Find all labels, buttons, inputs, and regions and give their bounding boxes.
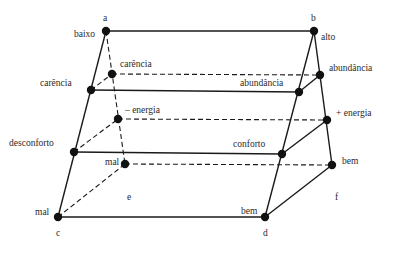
node-labels: baixo alto carência abundância carência … [9,29,373,217]
semantic-lattice-diagram: a b c d e f baixo alto carência abundânc… [0,0,395,253]
node-baixo [102,27,110,35]
vertex-b: b [311,13,316,23]
edge-front-carencia-abundancia [91,90,299,92]
edge-right-back [314,31,332,165]
edge-left-front [58,31,106,217]
node-front-abundancia [295,88,303,96]
label-conforto: conforto [233,139,265,149]
edge-left-depth-3 [58,164,125,217]
label-front-bem: bem [241,206,258,216]
edge-right-front [265,31,314,217]
edge-left-depth-2 [74,119,118,152]
label-back-carencia: carência [120,59,152,69]
edge-back-carencia-abundancia [112,74,320,75]
label-back-mal: mal [105,157,120,167]
edge-right-depth-3 [265,165,332,217]
node-front-bem [261,213,269,221]
label-front-abundancia: abundância [240,78,284,88]
vertex-d: d [263,228,268,238]
label-front-carencia: carência [40,78,72,88]
node-back-carencia [108,70,116,78]
edge-left-back [106,31,125,164]
edge-back-mal-bem [125,164,332,165]
node-back-abundancia [316,71,324,79]
label-plus-energia: + energia [336,108,372,118]
label-desconforto: desconforto [9,138,54,148]
label-minus-energia: – energia [124,105,161,115]
label-back-abundancia: abundância [329,63,373,73]
vertex-a: a [103,13,108,23]
node-conforto [278,150,286,158]
edge-back-energia [118,119,327,120]
node-front-carencia [87,86,95,94]
node-back-mal [121,160,129,168]
vertex-e: e [127,192,131,202]
nodes [54,27,336,221]
node-alto [310,27,318,35]
node-plus-energia [323,116,331,124]
label-baixo: baixo [74,29,95,39]
node-desconforto [70,148,78,156]
node-minus-energia [114,115,122,123]
edge-front-desconforto-conforto [74,152,282,154]
solid-edges [58,31,332,217]
vertex-f: f [335,192,339,202]
node-front-mal [54,213,62,221]
label-back-bem: bem [342,156,359,166]
label-alto: alto [321,32,335,42]
vertex-c: c [56,228,60,238]
vertex-letters: a b c d e f [56,13,339,238]
label-front-mal: mal [35,207,50,217]
node-back-bem [328,161,336,169]
